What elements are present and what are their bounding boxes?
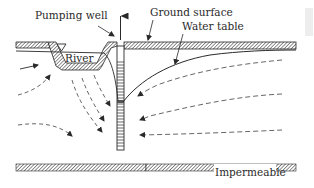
flow-lines-left [18,75,110,136]
flow-arrow-left [20,65,38,69]
ground-surface-label: Ground surface [150,6,233,18]
impermeable-layer [16,164,146,171]
ground-surface-right [124,42,296,49]
groundwater-diagram: River [0,0,314,188]
ground-surface-left [16,42,50,48]
water-table-curve-right [123,50,296,102]
river-label: River [65,52,94,64]
pumping-well-leader [98,26,114,36]
watermark [305,8,313,36]
water-table-label: Water table [182,20,244,32]
impermeable-label: Impermeable [215,166,286,178]
flow-lines-right [138,60,282,135]
water-table-curve [104,53,118,101]
ground-surface-leader [148,20,153,40]
pumping-well-label: Pumping well [35,9,108,21]
